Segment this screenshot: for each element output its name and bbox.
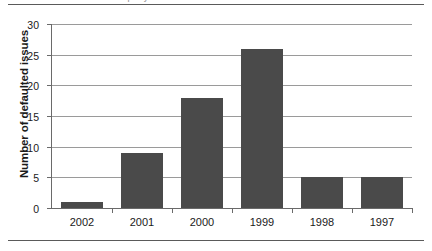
x-axis-label-2000: 2000 [172, 216, 232, 228]
y-tick-15: 15 [47, 116, 52, 117]
gridline-30 [52, 24, 412, 25]
bottom-rule [8, 240, 424, 241]
x-axis-label-2001: 2001 [112, 216, 172, 228]
y-tick-label-30: 30 [17, 19, 39, 31]
x-axis-label-2002: 2002 [52, 216, 112, 228]
figure-container: Number of defaulted issues per year Numb… [0, 0, 432, 251]
x-axis-label-1998: 1998 [292, 216, 352, 228]
x-axis-label-1999: 1999 [232, 216, 292, 228]
bar-2002[interactable] [61, 202, 103, 208]
x-axis-label-1997: 1997 [352, 216, 412, 228]
gridline-15 [52, 116, 412, 117]
y-tick-30: 30 [47, 24, 52, 25]
y-tick-label-15: 15 [17, 111, 39, 123]
bar-2000[interactable] [181, 98, 223, 208]
bar-1999[interactable] [241, 49, 283, 208]
x-tick-2 [232, 208, 233, 213]
x-tick-3 [292, 208, 293, 213]
y-tick-10: 10 [47, 147, 52, 148]
x-tick-4 [352, 208, 353, 213]
y-tick-label-0: 0 [17, 203, 39, 215]
y-tick-label-20: 20 [17, 80, 39, 92]
x-tick-1 [172, 208, 173, 213]
gridline-25 [52, 55, 412, 56]
gridline-20 [52, 85, 412, 86]
bar-1997[interactable] [361, 177, 403, 208]
y-tick-5: 5 [47, 177, 52, 178]
x-tick-0 [112, 208, 113, 213]
top-rule [8, 4, 424, 5]
bar-2001[interactable] [121, 153, 163, 208]
y-tick-label-5: 5 [17, 172, 39, 184]
gridline-10 [52, 147, 412, 148]
y-axis-title: Number of defaulted issues [18, 14, 30, 194]
x-tick-5 [412, 208, 413, 213]
y-tick-label-25: 25 [17, 50, 39, 62]
y-tick-0: 0 [47, 208, 52, 209]
gridline-5 [52, 177, 412, 178]
plot-area: 051015202530 200220012000199919981997 [52, 24, 412, 208]
y-tick-25: 25 [47, 55, 52, 56]
bar-chart: Number of defaulted issues 051015202530 … [0, 14, 432, 240]
bar-1998[interactable] [301, 177, 343, 208]
clipped-caption-fragment: Number of defaulted issues per year [10, 0, 310, 3]
y-tick-label-10: 10 [17, 142, 39, 154]
y-tick-20: 20 [47, 85, 52, 86]
